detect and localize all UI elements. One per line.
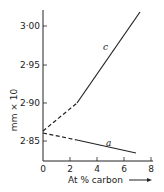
lattice-parameter-chart: 3·00 2·95 2·90 2·85 0 2 4 6 8 At % carbo… (0, 0, 164, 192)
y-tick-label: 2·90 (20, 98, 40, 108)
y-tick-label: 2·85 (20, 136, 40, 146)
y-axis-label: mm × 10 (9, 89, 19, 132)
series-c-label: c (103, 42, 108, 52)
y-ticks (43, 26, 47, 141)
series-a-label: a (106, 138, 111, 148)
series-c: c (43, 12, 140, 131)
x-ticks (70, 157, 151, 161)
series-c-solid (77, 12, 140, 103)
series-a-dashed (43, 133, 77, 140)
x-tick-label: 8 (148, 164, 154, 174)
x-tick-label: 4 (94, 164, 100, 174)
series-c-dashed (43, 103, 77, 131)
x-tick-label: 0 (40, 164, 46, 174)
y-tick-label: 3·00 (20, 21, 40, 31)
arrow-right-icon (129, 178, 152, 182)
x-tick-label: 6 (121, 164, 127, 174)
x-axis-label: At % carbon (68, 175, 123, 185)
x-tick-label: 2 (67, 164, 73, 174)
series-a: a (43, 133, 136, 153)
y-tick-label: 2·95 (20, 60, 40, 70)
